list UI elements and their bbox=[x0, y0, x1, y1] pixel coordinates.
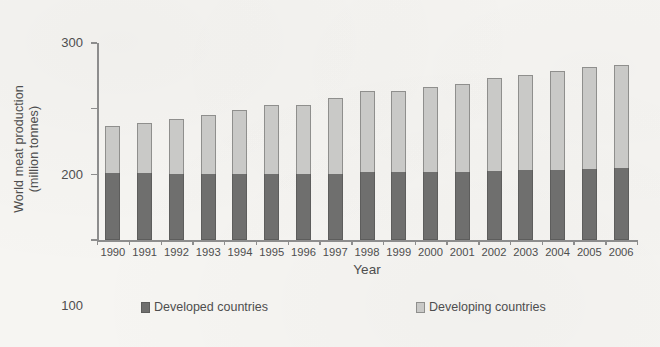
bar-segment-developing bbox=[264, 105, 279, 174]
y-axis-tick-label: 300 bbox=[61, 35, 83, 50]
bar-segment-developing bbox=[455, 84, 470, 172]
x-axis-tick-label: 2002 bbox=[482, 246, 507, 258]
x-axis-tick bbox=[383, 240, 384, 245]
bar-segment-developed bbox=[614, 168, 629, 240]
y-axis-title-line-2: (million tonnes) bbox=[27, 34, 42, 264]
bar-segment-developing bbox=[360, 91, 375, 172]
x-axis-tick-label: 1994 bbox=[227, 246, 252, 258]
y-axis-tick: 100 bbox=[91, 174, 97, 175]
bar-segment-developed bbox=[328, 174, 343, 240]
x-axis-tick bbox=[415, 240, 416, 245]
bar-1994[interactable] bbox=[232, 110, 247, 240]
bar-segment-developing bbox=[169, 119, 184, 174]
x-axis-tick bbox=[510, 240, 511, 245]
bar-1998[interactable] bbox=[360, 91, 375, 240]
bar-2004[interactable] bbox=[550, 71, 565, 240]
light-square-icon bbox=[416, 302, 425, 313]
x-axis-tick bbox=[161, 240, 162, 245]
bar-segment-developing bbox=[582, 67, 597, 169]
legend-item-developed: Developed countries bbox=[141, 300, 268, 314]
bar-segment-developed bbox=[201, 174, 216, 240]
bar-segment-developing bbox=[105, 126, 120, 173]
bar-segment-developed bbox=[423, 172, 438, 240]
bar-2005[interactable] bbox=[582, 67, 597, 240]
x-axis-tick-label: 1992 bbox=[164, 246, 189, 258]
x-axis-tick-label: 1999 bbox=[386, 246, 411, 258]
bar-segment-developed bbox=[582, 169, 597, 240]
bar-2003[interactable] bbox=[518, 75, 533, 240]
x-axis-tick bbox=[288, 240, 289, 245]
bar-segment-developed bbox=[137, 173, 152, 240]
x-axis-tick-label: 2001 bbox=[450, 246, 475, 258]
x-axis-tick bbox=[256, 240, 257, 245]
x-axis-title: Year bbox=[97, 262, 637, 277]
x-axis-tick bbox=[446, 240, 447, 245]
x-axis-tick bbox=[129, 240, 130, 245]
x-axis-tick-label: 2000 bbox=[418, 246, 443, 258]
x-axis-tick-label: 1996 bbox=[291, 246, 316, 258]
legend-label-developed: Developed countries bbox=[154, 300, 268, 314]
bar-segment-developed bbox=[518, 170, 533, 240]
bar-segment-developed bbox=[360, 172, 375, 240]
bar-segment-developing bbox=[296, 105, 311, 174]
y-axis-tick-label: 100 bbox=[61, 297, 83, 312]
bar-segment-developed bbox=[487, 171, 502, 240]
bar-1991[interactable] bbox=[137, 123, 152, 240]
bar-segment-developed bbox=[455, 172, 470, 240]
y-axis-line bbox=[97, 43, 99, 240]
bar-segment-developing bbox=[550, 71, 565, 170]
bar-1992[interactable] bbox=[169, 119, 184, 240]
bar-1997[interactable] bbox=[328, 98, 343, 240]
x-axis-tick-label: 1995 bbox=[259, 246, 284, 258]
dark-square-icon bbox=[141, 302, 150, 313]
bar-segment-developed bbox=[232, 174, 247, 240]
chart-legend: Developed countries Developing countries bbox=[97, 300, 637, 314]
bar-segment-developed bbox=[550, 170, 565, 240]
bar-segment-developed bbox=[169, 174, 184, 240]
x-axis-tick bbox=[319, 240, 320, 245]
x-axis-tick bbox=[97, 240, 98, 245]
bar-1996[interactable] bbox=[296, 105, 311, 240]
bar-1995[interactable] bbox=[264, 105, 279, 240]
bar-segment-developing bbox=[423, 87, 438, 172]
x-axis-tick bbox=[192, 240, 193, 245]
bar-1993[interactable] bbox=[201, 115, 216, 240]
bar-2006[interactable] bbox=[614, 65, 629, 240]
bar-1999[interactable] bbox=[391, 91, 406, 240]
x-axis-tick-label: 2003 bbox=[513, 246, 538, 258]
x-axis-tick-label: 1993 bbox=[196, 246, 221, 258]
x-axis-tick bbox=[351, 240, 352, 245]
y-axis-tick: 200 bbox=[91, 108, 97, 109]
x-axis-tick bbox=[478, 240, 479, 245]
bar-1990[interactable] bbox=[105, 126, 120, 240]
x-axis-tick-label: 2006 bbox=[609, 246, 634, 258]
bar-segment-developing bbox=[201, 115, 216, 174]
x-axis-tick-label: 2005 bbox=[577, 246, 602, 258]
x-axis-tick-label: 1998 bbox=[355, 246, 380, 258]
x-axis-tick-label: 1997 bbox=[323, 246, 348, 258]
x-axis-tick bbox=[637, 240, 638, 245]
chart-figure: World meat production (million tonnes) 0… bbox=[0, 0, 660, 347]
x-axis-tick-label: 1991 bbox=[132, 246, 157, 258]
y-axis-tick: 300 bbox=[91, 42, 97, 43]
x-axis-tick bbox=[542, 240, 543, 245]
bar-2001[interactable] bbox=[455, 84, 470, 240]
bar-2002[interactable] bbox=[487, 78, 502, 240]
y-axis-title-line-1: World meat production bbox=[12, 34, 27, 264]
x-axis-line bbox=[97, 240, 637, 242]
bar-segment-developing bbox=[137, 123, 152, 173]
legend-item-developing: Developing countries bbox=[416, 300, 546, 314]
x-axis-tick bbox=[605, 240, 606, 245]
bar-segment-developed bbox=[105, 173, 120, 240]
bar-segment-developing bbox=[232, 110, 247, 174]
x-axis-tick bbox=[224, 240, 225, 245]
x-axis-tick bbox=[573, 240, 574, 245]
legend-label-developing: Developing countries bbox=[429, 300, 546, 314]
plot-area: 0100200300 19901991199219931994199519961… bbox=[97, 43, 637, 240]
x-axis-tick-label: 2004 bbox=[545, 246, 570, 258]
bar-segment-developed bbox=[296, 174, 311, 240]
bar-segment-developing bbox=[487, 78, 502, 171]
bar-segment-developing bbox=[614, 65, 629, 169]
x-axis-tick-label: 1990 bbox=[100, 246, 125, 258]
bar-2000[interactable] bbox=[423, 87, 438, 240]
